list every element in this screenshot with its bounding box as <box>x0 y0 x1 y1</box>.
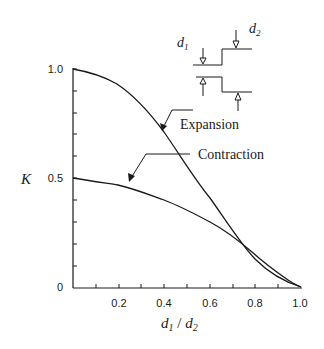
y-tick-label-0: 0 <box>57 281 63 293</box>
axes <box>73 68 302 288</box>
x-tick-label-10: 1.0 <box>292 297 307 309</box>
contraction-annotation: Contraction <box>128 147 264 182</box>
expansion-label: Expansion <box>180 117 239 132</box>
contraction-label: Contraction <box>198 147 264 162</box>
contraction-curve <box>73 178 301 287</box>
x-tick-label-08: 0.8 <box>247 297 262 309</box>
pipe-step-diagram <box>193 30 252 111</box>
expansion-annotation: Expansion <box>160 110 239 132</box>
y-tick-label-05: 0.5 <box>48 172 63 184</box>
loss-coefficient-chart: 1.0 0.5 0 0.2 0.4 0.6 0.8 1.0 K d1 / d2 … <box>0 0 324 349</box>
x-tick-label-04: 0.4 <box>156 297 171 309</box>
d2-label: d2 <box>249 21 261 38</box>
expansion-curve <box>73 69 301 287</box>
y-tick-label-1: 1.0 <box>48 63 63 75</box>
y-axis-title: K <box>20 171 32 187</box>
x-tick-label-02: 0.2 <box>111 297 126 309</box>
x-tick-label-06: 0.6 <box>202 297 217 309</box>
d1-label: d1 <box>177 35 189 52</box>
x-axis-title: d1 / d2 <box>161 315 198 333</box>
